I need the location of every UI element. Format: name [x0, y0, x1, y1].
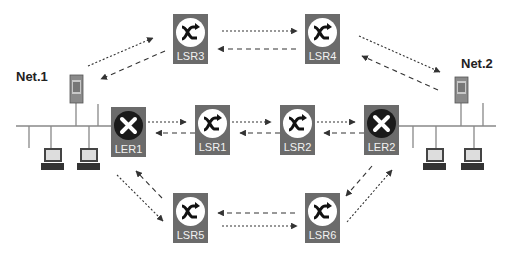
node-lsr2[interactable]: LSR2: [280, 105, 315, 155]
lsr-switch-icon: [198, 109, 227, 138]
link-net2-lsr4: [362, 56, 438, 90]
ler-cross-icon: [114, 111, 143, 140]
node-label: LSR6: [305, 229, 340, 241]
network-label-net2: Net.2: [461, 56, 493, 71]
node-label: LER2: [364, 141, 399, 153]
workstation-icon: [41, 148, 64, 170]
node-label: LSR4: [305, 50, 340, 62]
link-lsr3-net1: [101, 51, 165, 79]
node-label: LSR3: [173, 50, 208, 62]
ler-cross-icon: [367, 109, 396, 138]
network-label-net1: Net.1: [16, 69, 48, 84]
link-lsr6-ler2: [347, 170, 392, 222]
node-lsr5[interactable]: LSR5: [173, 193, 208, 243]
lan-net2: [399, 103, 496, 148]
node-lsr6[interactable]: LSR6: [305, 193, 340, 243]
node-lsr4[interactable]: LSR4: [305, 14, 340, 64]
node-ler1[interactable]: LER1: [111, 107, 146, 157]
lsr-switch-icon: [283, 109, 312, 138]
node-label: LSR5: [173, 229, 208, 241]
node-lsr1[interactable]: LSR1: [195, 105, 230, 155]
link-net1-lsr3: [88, 38, 153, 66]
link-lsr4-net2: [359, 36, 440, 72]
node-lsr3[interactable]: LSR3: [173, 14, 208, 64]
server-icon: [455, 77, 468, 103]
diagram-canvas: [0, 0, 508, 255]
lsr-switch-icon: [176, 197, 205, 226]
lsr-switch-icon: [176, 18, 205, 47]
link-ler1-lsr5: [117, 175, 163, 221]
workstation-icon: [423, 148, 446, 170]
workstation-icon: [77, 148, 100, 170]
workstation-icon: [461, 148, 484, 170]
node-label: LER1: [111, 143, 146, 155]
lan-net1: [16, 103, 111, 148]
node-label: LSR1: [195, 141, 230, 153]
node-ler2[interactable]: LER2: [364, 105, 399, 155]
node-label: LSR2: [280, 141, 315, 153]
lsr-switch-icon: [308, 18, 337, 47]
link-ler2-lsr6: [346, 166, 372, 196]
server-icon: [70, 75, 83, 103]
link-lsr5-ler1: [136, 171, 162, 198]
lsr-switch-icon: [308, 197, 337, 226]
